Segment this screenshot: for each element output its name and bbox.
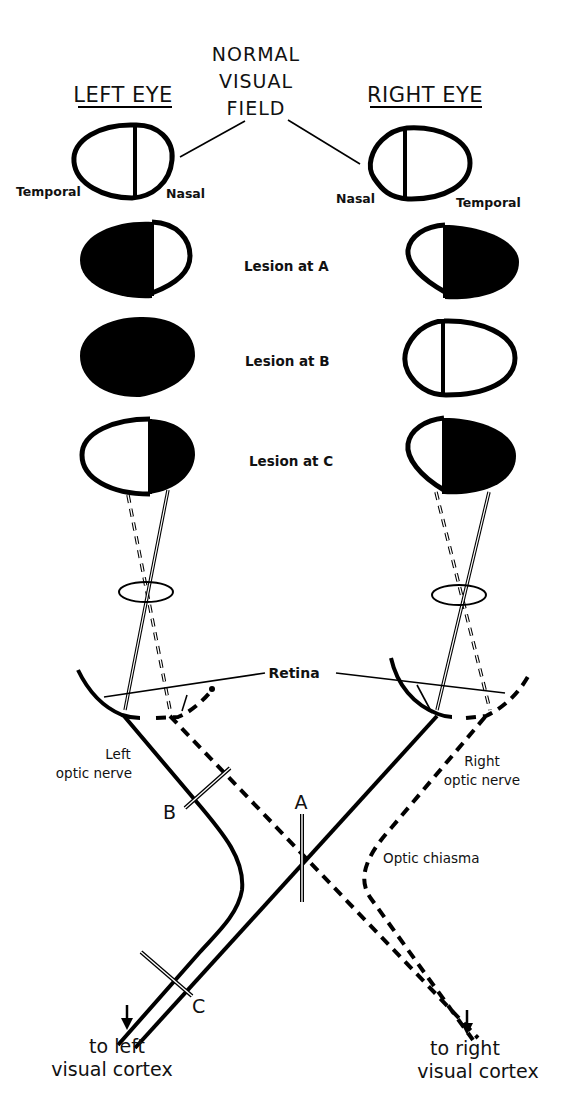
lesion-a-letter: A: [295, 791, 308, 813]
left-cortex-arrow-icon: [121, 1005, 133, 1030]
optic-chiasma-label: Optic chiasma: [383, 850, 479, 866]
right-optic-nerve-label-2: optic nerve: [444, 772, 520, 788]
right-cortex-label-1: to right: [430, 1037, 500, 1059]
left-eye-header: LEFT EYE: [73, 83, 173, 107]
right-cortex-label-2: visual cortex: [417, 1060, 538, 1082]
left-crossed-fiber: [170, 716, 478, 1038]
lesion-b-right-field: [405, 321, 515, 395]
title-line-3: FIELD: [227, 97, 286, 119]
lesion-c-label: Lesion at C: [249, 453, 333, 469]
left-optic-nerve-label-1: Left: [105, 746, 130, 762]
lesion-a-left-field: [80, 222, 190, 298]
left-temporal-label: Temporal: [16, 184, 81, 199]
title-pointer-right: [288, 120, 360, 164]
right-eye-normal-field: [370, 128, 470, 199]
lesion-a-right-field: [408, 225, 519, 299]
left-retina: [78, 670, 215, 718]
lesion-c-left-field: [82, 419, 195, 494]
right-nasal-label: Nasal: [336, 191, 375, 206]
retina-label: Retina: [268, 665, 319, 681]
left-eye-rays: [119, 490, 173, 710]
visual-pathway-diagram: NORMAL VISUAL FIELD LEFT EYE RIGHT EYE T…: [0, 0, 579, 1098]
left-nasal-label: Nasal: [166, 186, 205, 201]
title-line-1: NORMAL: [212, 43, 300, 65]
title-pointer-left: [180, 121, 245, 157]
left-cortex-label-2: visual cortex: [51, 1058, 172, 1080]
right-eye-rays: [432, 492, 490, 710]
lesion-a-label: Lesion at A: [244, 258, 329, 274]
left-eye-label: LEFT EYE: [73, 83, 173, 107]
left-eye-normal-field: [74, 125, 172, 198]
lesion-b-marker: [185, 768, 230, 808]
right-crossed-fiber: [135, 716, 437, 1048]
lesion-b-label: Lesion at B: [245, 353, 330, 369]
left-optic-nerve-label-2: optic nerve: [56, 765, 132, 781]
right-eye-header: RIGHT EYE: [367, 83, 483, 107]
left-cortex-label-1: to left: [89, 1035, 145, 1057]
lesion-b-letter: B: [163, 801, 176, 823]
right-eye-label: RIGHT EYE: [367, 83, 483, 107]
lesion-b-left-field: [80, 317, 195, 397]
right-optic-nerve-label-1: Right: [464, 753, 500, 769]
lesion-c-letter: C: [192, 995, 205, 1017]
title-line-2: VISUAL: [219, 70, 293, 92]
right-temporal-label: Temporal: [456, 195, 521, 210]
lesion-c-right-field: [408, 418, 516, 494]
